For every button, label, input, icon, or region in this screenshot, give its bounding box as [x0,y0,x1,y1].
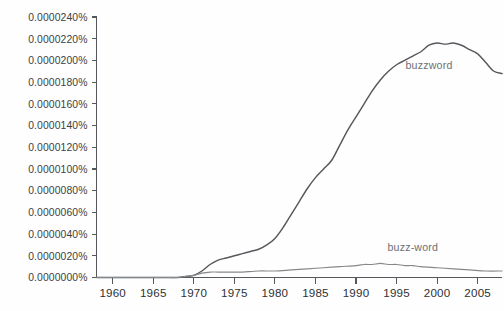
series-group [97,43,503,278]
x-tick-label: 1960 [99,286,126,299]
series-line-buzzword[interactable] [97,43,503,278]
x-tick-label: 1975 [221,286,248,299]
x-tick-label: 2000 [424,286,451,299]
x-tick-label: 1995 [383,286,410,299]
y-tick-label: 0.0000080% [28,185,87,196]
y-tick-label: 0.0000160% [28,99,87,110]
y-tick-label: 0.0000020% [28,251,87,262]
series-label-buzzword: buzzword [406,59,453,71]
y-tick-group: 0.0000000%0.0000020%0.0000040%0.0000060%… [28,12,96,284]
y-tick-label: 0.0000060% [28,207,87,218]
ngram-chart: 0.0000000%0.0000020%0.0000040%0.0000060%… [0,0,504,311]
series-line-buzz-word[interactable] [97,263,503,277]
y-tick-label: 0.0000000% [28,272,87,283]
y-tick-label: 0.0000100% [28,164,87,175]
y-tick-label: 0.0000040% [28,229,87,240]
y-tick-label: 0.0000220% [28,34,87,45]
x-tick-label: 1970 [181,286,208,299]
x-tick-label: 1965 [140,286,167,299]
x-tick-label: 2005 [464,286,491,299]
y-tick-label: 0.0000200% [28,55,87,66]
y-tick-label: 0.0000120% [28,142,87,153]
y-axis-group: 0.0000000%0.0000020%0.0000040%0.0000060%… [28,12,96,284]
x-tick-group: 1960196519701975198019851990199520002005 [99,278,491,299]
series-label-group: buzzwordbuzz-word [387,59,452,253]
y-tick-label: 0.0000180% [28,77,87,88]
x-axis-group: 1960196519701975198019851990199520002005 [97,278,503,299]
x-tick-label: 1980 [262,286,289,299]
x-tick-label: 1990 [343,286,370,299]
y-tick-label: 0.0000240% [28,12,87,23]
y-tick-label: 0.0000140% [28,120,87,131]
series-label-buzz-word: buzz-word [387,241,438,253]
x-tick-label: 1985 [302,286,329,299]
chart-canvas: 0.0000000%0.0000020%0.0000040%0.0000060%… [0,0,504,311]
